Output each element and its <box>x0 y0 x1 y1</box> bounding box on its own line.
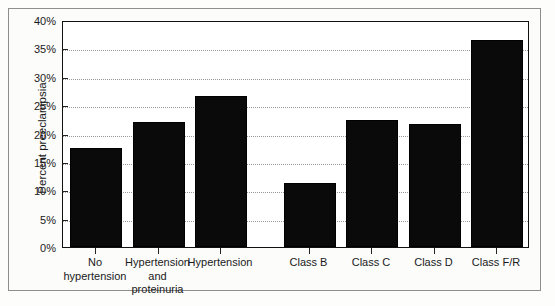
x-axis-tick-label-line: proteinuria <box>113 283 203 297</box>
x-axis-tick-mark <box>220 248 221 254</box>
bar <box>284 183 336 247</box>
x-axis-tick-mark <box>95 248 96 254</box>
y-axis-tick-label: 35% <box>20 44 56 55</box>
x-axis-tick-mark <box>496 248 497 254</box>
bar <box>70 148 122 247</box>
x-axis-tick-mark <box>371 248 372 254</box>
y-axis-tick-mark <box>62 106 68 107</box>
gridline <box>63 50 528 51</box>
bar <box>195 96 247 247</box>
bar <box>133 122 185 247</box>
plot-area <box>62 21 529 248</box>
x-axis-tick-label-line: Class F/R <box>451 256 541 270</box>
bar <box>346 120 398 247</box>
x-axis-tick-label: Hypertension <box>175 256 265 270</box>
y-axis-tick-label: 25% <box>20 101 56 112</box>
x-axis-tick-label-line: Hypertension <box>175 256 265 270</box>
y-axis-tick-labels: 0%5%10%15%20%25%30%35%40% <box>16 21 56 248</box>
y-axis-tick-label: 10% <box>20 186 56 197</box>
y-axis-tick-mark <box>62 220 68 221</box>
y-axis-tick-mark <box>62 135 68 136</box>
gridline <box>63 79 528 80</box>
bar-chart: Percent preeclampsia 0%5%10%15%20%25%30%… <box>0 0 555 306</box>
x-axis-tick-label: Class F/R <box>451 256 541 270</box>
y-axis-tick-label: 0% <box>20 243 56 254</box>
y-axis-tick-label: 5% <box>20 214 56 225</box>
x-axis-tick-mark <box>158 248 159 254</box>
x-axis-tick-label-line: and <box>113 270 203 284</box>
bar <box>409 124 461 247</box>
x-axis-tick-mark <box>434 248 435 254</box>
gridline <box>63 107 528 108</box>
x-axis-tick-mark <box>309 248 310 254</box>
figure-canvas: Percent preeclampsia 0%5%10%15%20%25%30%… <box>0 0 555 306</box>
y-axis-tick-label: 15% <box>20 157 56 168</box>
y-axis-tick-label: 20% <box>20 129 56 140</box>
y-axis-tick-mark <box>62 163 68 164</box>
y-axis-tick-mark <box>62 49 68 50</box>
y-axis-tick-mark <box>62 191 68 192</box>
y-axis-tick-label: 30% <box>20 72 56 83</box>
y-axis-tick-mark <box>62 78 68 79</box>
y-axis-tick-label: 40% <box>20 16 56 27</box>
bar <box>471 40 523 247</box>
